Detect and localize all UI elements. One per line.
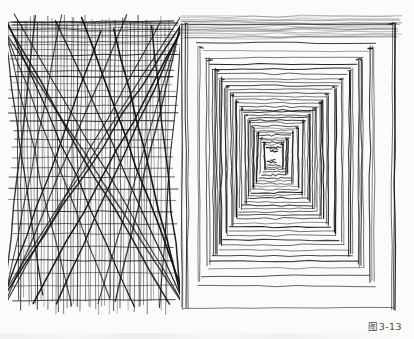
scan-edge-smudge bbox=[0, 333, 414, 339]
plate-one-point-perspective-corridor bbox=[180, 8, 402, 316]
figure-page: 图3-13 bbox=[0, 0, 414, 339]
crosshatch-grid-svg bbox=[8, 10, 180, 315]
right-wall-pillar-group bbox=[281, 23, 395, 310]
ceiling-rule-group bbox=[180, 15, 402, 152]
figure-caption: 图3-13 bbox=[368, 319, 402, 333]
plate-crosshatch-grid-study bbox=[8, 10, 180, 315]
perspective-corridor-svg bbox=[180, 8, 402, 316]
left-wall-pillar-group bbox=[181, 23, 265, 310]
